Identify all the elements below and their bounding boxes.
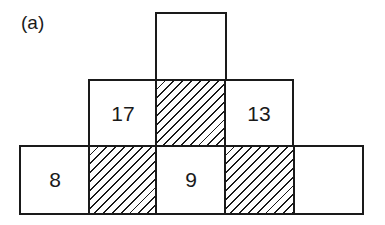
pyramid-cell-bottom-5	[293, 145, 364, 215]
pyramid-cell-bottom-1: 8	[19, 145, 91, 215]
pyramid-cell-bottom-2-hatched	[88, 145, 158, 215]
pyramid-cell-middle-3: 13	[224, 79, 294, 148]
pyramid-cell-bottom-4-hatched	[224, 145, 296, 215]
pyramid-cell-middle-1: 17	[88, 79, 158, 148]
figure-label: (a)	[21, 12, 44, 34]
pyramid-cell-bottom-3: 9	[155, 145, 227, 215]
pyramid-cell-top	[155, 12, 227, 82]
pyramid-cell-middle-2-hatched	[155, 79, 227, 148]
